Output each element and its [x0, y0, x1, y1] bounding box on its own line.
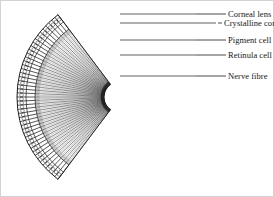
corneal-lens-cell	[43, 31, 47, 35]
corneal-lens-cell	[48, 165, 52, 169]
eye-artwork	[17, 15, 110, 180]
corneal-lens-cell	[32, 143, 36, 147]
leader-lines	[120, 14, 226, 76]
ommatidium-divider	[38, 35, 52, 46]
retinula-cell-line	[53, 45, 107, 87]
ommatidium-divider	[58, 15, 69, 29]
corneal-lens-cell	[30, 139, 34, 143]
ommatidium-divider	[17, 93, 35, 94]
corneal-lens-cell	[46, 162, 50, 166]
corneal-lens-cell	[20, 93, 24, 97]
corneal-lens-cell	[46, 28, 50, 32]
corneal-lens-cell	[57, 18, 61, 22]
pigment-cell-tick	[36, 111, 40, 112]
corneal-lens-cell	[28, 55, 32, 59]
corneal-lens-cell	[22, 117, 26, 121]
corneal-lens-cell	[51, 168, 55, 172]
corneal-lens-cell	[57, 173, 61, 177]
corneal-lens-cell	[20, 89, 24, 93]
corneal-lens-cell	[21, 113, 25, 117]
corneal-lens-cell	[36, 149, 40, 153]
retinula-cell-line	[53, 107, 107, 149]
corneal-lens-cell	[24, 124, 28, 128]
pigment-cell-tick	[36, 109, 40, 110]
nerve-fibre-line	[59, 108, 108, 155]
ommatidium-divider	[27, 53, 43, 61]
ommatidium-divider	[25, 130, 42, 137]
corneal-lens-cell	[43, 159, 47, 163]
pigment-cell-tick	[36, 83, 40, 84]
corneal-lens-cell	[36, 41, 40, 45]
ommatidium-divider	[40, 32, 54, 43]
corneal-lens-cell	[27, 132, 31, 136]
ommatidium-divider	[38, 148, 52, 159]
ommatidium-divider	[58, 165, 69, 179]
corneal-lens-cell	[54, 170, 58, 174]
corneal-lens-cell	[30, 51, 34, 55]
corneal-lens-cell	[28, 136, 32, 140]
retinula-cell-line	[67, 30, 109, 84]
ommatidium-divider	[55, 163, 66, 177]
ommatidium-divider	[31, 46, 47, 55]
corneal-lens-cell	[34, 44, 38, 48]
retinula-cell-line	[67, 110, 109, 164]
ommatidium-divider	[25, 57, 42, 64]
corneal-lens-cell	[38, 38, 42, 42]
corneal-lens-cell	[32, 48, 36, 52]
corneal-lens-cell	[38, 153, 42, 157]
corneal-lens-cell	[41, 156, 45, 160]
label-pigment-cell: Pigment cell	[228, 36, 271, 45]
corneal-lens-cell	[41, 35, 45, 39]
pigment-cell-tick	[36, 86, 40, 87]
corneal-lens-cell	[23, 70, 27, 74]
ommatidium-divider	[27, 133, 43, 141]
diagram-canvas	[0, 0, 274, 197]
pigment-cell-tick	[36, 84, 40, 85]
corneal-lens-cell	[25, 128, 29, 132]
nerve-fibre-line	[66, 31, 109, 84]
corneal-lens-cell	[21, 77, 25, 81]
corneal-lens-cell	[34, 146, 38, 150]
corneal-lens-cell	[20, 105, 24, 109]
corneal-lens-cell	[23, 121, 27, 125]
label-nerve-fibre: Nerve fibre	[228, 72, 268, 81]
corneal-lens-cell	[21, 109, 25, 113]
nerve-fibre-line	[66, 110, 109, 163]
ommatidium-divider	[17, 100, 35, 101]
ommatidium-divider	[31, 139, 47, 148]
corneal-lens-cell	[20, 85, 24, 89]
corneal-lens-cell	[48, 26, 52, 30]
pigment-cell-tick	[36, 107, 40, 108]
corneal-lens-cell	[51, 23, 55, 27]
ommatidium-divider	[29, 136, 45, 144]
corneal-lens-cell	[21, 81, 25, 85]
corneal-lens-cell	[25, 62, 29, 66]
ommatidium-divider	[55, 17, 66, 31]
corneal-lens-cell	[20, 97, 24, 101]
compound-eye-diagram	[0, 0, 274, 197]
ommatidium-divider	[40, 151, 54, 162]
nerve-fibre-line	[59, 38, 108, 85]
label-crystalline-cone: Crystalline cone	[224, 19, 274, 28]
corneal-lens-cell	[20, 101, 24, 105]
corneal-lens-cell	[54, 20, 58, 24]
label-retinula-cell: Retinula cell	[228, 51, 272, 60]
corneal-lens-cell	[24, 66, 28, 70]
corneal-lens-cell	[22, 74, 26, 78]
corneal-lens-cell	[27, 58, 31, 62]
ommatidium-divider	[29, 49, 45, 57]
